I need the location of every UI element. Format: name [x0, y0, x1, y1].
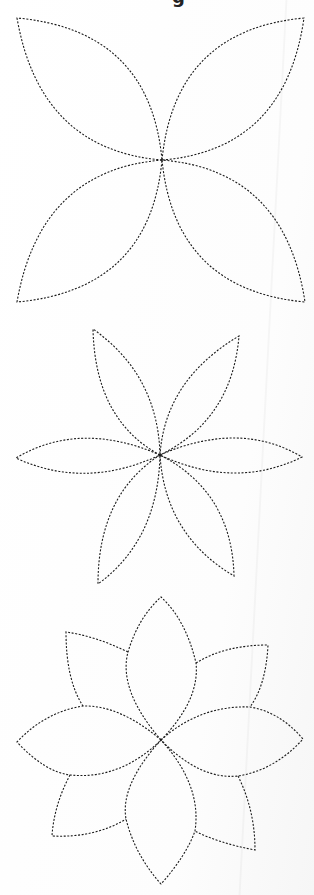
petal-lower-right	[162, 160, 305, 302]
four-petal-flower	[17, 18, 305, 302]
back-petal-lower-right	[195, 776, 255, 850]
petal-left	[17, 706, 161, 776]
back-petal-upper-right	[196, 645, 268, 707]
petal-upper-right	[162, 18, 304, 160]
petal-right	[161, 707, 303, 776]
eight-petal-layered-flower	[17, 597, 303, 884]
petal-bottom	[125, 740, 196, 884]
six-petal-flower	[16, 329, 302, 584]
petal-left	[16, 438, 160, 473]
petal-upper-left	[17, 18, 162, 160]
petal-upper-right	[160, 336, 239, 455]
petal-lower-left	[17, 160, 162, 302]
petal-lower-left	[98, 455, 160, 584]
petal-top	[126, 597, 196, 740]
petal-upper-left	[93, 329, 160, 455]
petal-lower-right	[160, 455, 234, 576]
back-petal-lower-left	[52, 775, 126, 836]
printable-page: g	[0, 0, 314, 895]
back-petal-upper-left	[66, 632, 128, 706]
flower-templates	[0, 0, 314, 895]
